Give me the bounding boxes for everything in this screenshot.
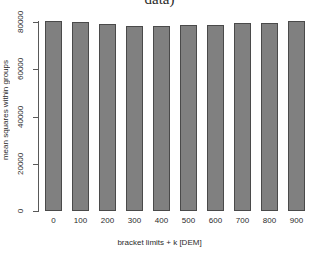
x-axis-tick-label: 400 (147, 216, 177, 225)
x-axis-tick-label: 300 (120, 216, 150, 225)
chart-title-clip: data) (0, 0, 319, 9)
x-axis-tick-label: 100 (66, 216, 96, 225)
y-axis-label: mean squares within groups (1, 60, 10, 160)
x-axis-tick-label: 800 (255, 216, 285, 225)
bar (234, 23, 251, 211)
bar (153, 26, 170, 211)
x-axis-tick-label: 500 (174, 216, 204, 225)
y-axis-tick-label: 20000 (16, 149, 25, 179)
bar (207, 25, 224, 211)
bar (126, 26, 143, 211)
bar (99, 24, 116, 211)
x-axis-label: bracket limits + k [DEM] (0, 238, 319, 247)
bar (72, 22, 89, 211)
bar (45, 21, 62, 211)
x-axis-tick-label: 600 (201, 216, 231, 225)
x-axis-tick-label: 0 (39, 216, 69, 225)
bar (261, 23, 278, 211)
chart-title: data) (0, 0, 319, 8)
bar (288, 21, 305, 211)
x-axis-tick-label: 900 (282, 216, 312, 225)
x-axis-tick-label: 200 (93, 216, 123, 225)
y-axis-tick (33, 211, 38, 212)
y-axis-tick-label: 0 (16, 206, 25, 215)
y-axis-tick-label: 40000 (16, 102, 25, 132)
y-axis-tick-label: 60000 (16, 54, 25, 84)
chart-canvas: data) 020000400006000080000 mean squares… (0, 0, 319, 253)
y-axis-tick-label: 80000 (16, 7, 25, 37)
bar (180, 25, 197, 211)
x-axis-tick-label: 700 (228, 216, 258, 225)
